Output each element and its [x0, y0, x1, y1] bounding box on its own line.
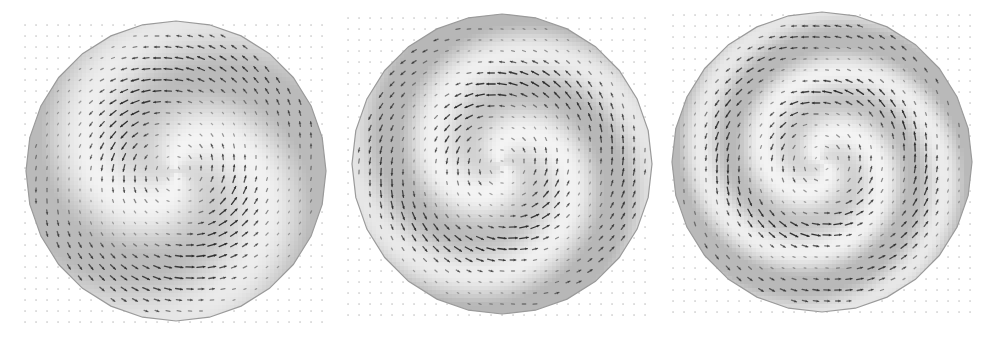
spiral-panel-2	[347, 14, 652, 316]
spiral-panel-1	[24, 21, 326, 323]
vector-field-figure	[0, 0, 999, 341]
figure-canvas	[0, 0, 999, 341]
spiral-panel-3	[672, 12, 972, 313]
